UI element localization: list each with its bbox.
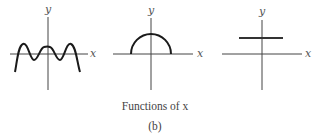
panel-semicircle: y x (113, 4, 204, 90)
y-axis-label: y (44, 3, 52, 16)
figure-canvas: y x y x y x Functions of x (b) (0, 0, 314, 138)
x-axis-label: x (305, 47, 312, 60)
figure-sublabel: (b) (148, 120, 162, 133)
figure-caption: Functions of x (122, 100, 189, 112)
x-axis-label: x (90, 47, 97, 60)
y-axis-label: y (147, 4, 155, 17)
panel-constant-function: y x (222, 5, 312, 90)
panel-oscillating-polynomial: y x (10, 3, 97, 90)
y-axis-label: y (258, 5, 266, 18)
x-axis-label: x (197, 47, 204, 60)
